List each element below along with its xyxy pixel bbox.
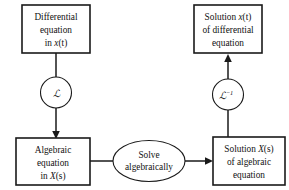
- solution-Xs-prefix: Solution: [224, 144, 258, 154]
- node-laplace-transform: ℒ: [41, 77, 72, 108]
- edge-inverse-laplace-to-solution-xt: [224, 54, 232, 79]
- algebraic-equation-line-3: in X(s): [40, 171, 65, 182]
- algebraic-equation-line-1: Algebraic: [35, 145, 72, 155]
- solution-Xs-line-3: equation: [233, 170, 265, 180]
- node-solution-Xs: Solution X(s) of algebraic equation: [213, 137, 285, 185]
- solution-Xs-argument: (s): [264, 144, 274, 155]
- solution-xt-argument: (t): [243, 12, 252, 23]
- differential-equation-argument: (t): [58, 38, 67, 49]
- solution-xt-line-2: of differential: [202, 25, 254, 35]
- solution-Xs-line-1: Solution X(s): [224, 144, 273, 155]
- algebraic-equation-line-2: equation: [37, 158, 69, 168]
- solution-xt-line-3: equation: [212, 38, 244, 48]
- solve-algebraically-line-2: algebraically: [125, 162, 173, 172]
- laplace-method-flowchart: Differential equation in x(t) Solution x…: [0, 0, 289, 190]
- laplace-symbol: ℒ: [53, 88, 61, 99]
- solve-algebraically-line-1: Solve: [138, 150, 159, 160]
- edge-solve-to-solution-Xs: [185, 157, 213, 165]
- differential-equation-line-3: in x(t): [45, 38, 67, 49]
- node-solution-xt: Solution x(t) of differential equation: [194, 5, 262, 53]
- solution-xt-prefix: Solution: [205, 12, 239, 22]
- algebraic-equation-in-word: in: [40, 171, 50, 181]
- node-differential-equation: Differential equation in x(t): [22, 5, 90, 53]
- differential-equation-line-2: equation: [40, 25, 72, 35]
- differential-equation-in-word: in: [45, 38, 55, 48]
- differential-equation-line-1: Differential: [34, 12, 78, 22]
- algebraic-equation-argument: (s): [56, 171, 66, 182]
- node-algebraic-equation: Algebraic equation in X(s): [16, 138, 90, 185]
- inverse-laplace-exponent: −1: [226, 89, 233, 96]
- node-solve-algebraically: Solve algebraically: [113, 141, 185, 182]
- solution-xt-line-1: Solution x(t): [205, 12, 252, 23]
- laplace-symbol-text: ℒ: [53, 88, 61, 99]
- edge-laplace-to-algebraic: [52, 108, 60, 139]
- node-inverse-laplace-transform: ℒ−1: [213, 79, 244, 110]
- solution-Xs-line-2: of algebraic: [227, 157, 271, 167]
